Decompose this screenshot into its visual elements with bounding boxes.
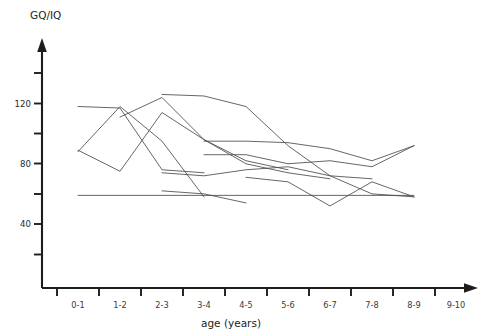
x-tick-label-1: 1-2 — [113, 300, 126, 310]
y-axis-ticks — [34, 73, 42, 255]
y-tick-label-40: 40 — [20, 219, 31, 229]
series-line-subject-4 — [120, 97, 330, 178]
y-tick-label-80: 80 — [20, 159, 31, 169]
x-axis-ticks — [57, 288, 435, 296]
chart-container: 120 80 40 0-1 1-2 2-3 3-4 4-5 5-6 6-7 7-… — [0, 0, 496, 334]
x-axis-arrowhead — [464, 283, 478, 293]
x-tick-label-9: 9-10 — [447, 300, 466, 310]
x-tick-label-2: 2-3 — [155, 300, 168, 310]
series-group — [78, 94, 414, 205]
x-axis — [42, 283, 478, 293]
x-tick-label-6: 6-7 — [323, 300, 336, 310]
y-axis-arrowhead — [37, 38, 47, 52]
x-tick-label-5: 5-6 — [281, 300, 294, 310]
line-chart-svg: 120 80 40 0-1 1-2 2-3 3-4 4-5 5-6 6-7 7-… — [0, 0, 496, 334]
x-tick-label-3: 3-4 — [197, 300, 210, 310]
y-axis-title: GQ/IQ — [30, 9, 61, 21]
series-line-subject-7 — [204, 146, 414, 167]
series-line-subject-2 — [78, 107, 204, 173]
x-tick-label-4: 4-5 — [239, 300, 252, 310]
series-line-subject-5 — [162, 94, 372, 178]
series-line-subject-9 — [246, 177, 414, 206]
y-tick-label-120: 120 — [15, 99, 31, 109]
x-tick-label-8: 8-9 — [407, 300, 420, 310]
x-tick-label-7: 7-8 — [365, 300, 378, 310]
x-axis-title-label: age (years) — [201, 317, 261, 329]
x-tick-label-0: 0-1 — [71, 300, 84, 310]
